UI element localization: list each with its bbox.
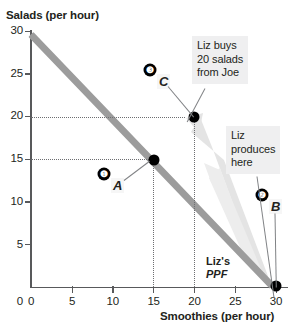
callout-liz-buys-line3: from Joe [197, 66, 243, 80]
ppf-chart: 30 25 20 15 10 5 0 0 5 10 15 20 25 30 Sa… [0, 0, 297, 331]
callout-liz-produces-line1: Liz [231, 129, 275, 143]
callout-liz-buys-line1: Liz buys [197, 39, 243, 53]
point-label-b: B [269, 199, 282, 214]
guide-v-20 [194, 117, 195, 287]
ppf-caption: Liz's PPF [206, 255, 230, 281]
guide-v-15 [153, 160, 154, 287]
ppf-caption-line1: Liz's [206, 255, 230, 268]
badge-2: ❷ [256, 189, 269, 202]
badge-3: ❸ [144, 64, 157, 77]
guide-h-15 [31, 159, 153, 160]
callout-liz-buys-line2: 20 salads [197, 53, 243, 67]
callout-liz-produces-line3: here [231, 156, 275, 170]
badge-1: ❶ [98, 168, 111, 181]
data-point-a[interactable] [148, 154, 159, 165]
callout-liz-produces-line2: produces [231, 143, 275, 157]
callout-liz-produces: Liz produces here [226, 126, 280, 174]
guide-h-20 [31, 117, 185, 118]
ppf-caption-line2: PPF [206, 268, 230, 281]
callout-liz-buys: Liz buys 20 salads from Joe [192, 36, 248, 84]
point-label-a: A [111, 178, 124, 193]
